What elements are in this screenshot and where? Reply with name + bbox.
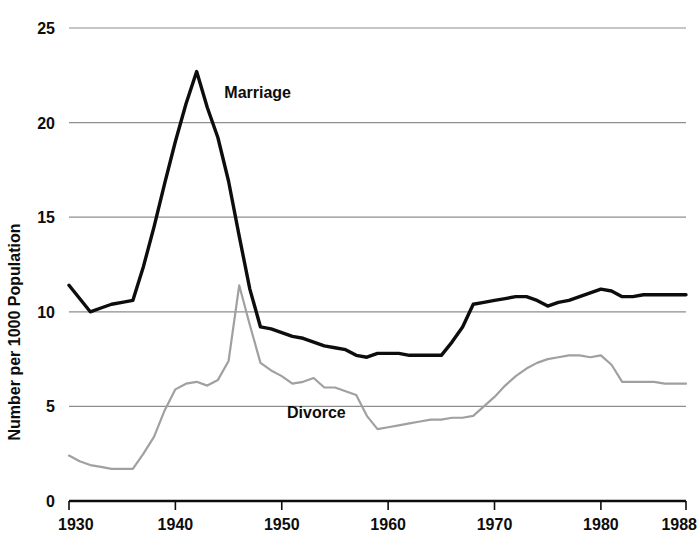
- x-tick-label-1950: 1950: [264, 516, 300, 533]
- line-chart: 0510152025 1930194019501960197019801988 …: [0, 0, 700, 559]
- y-tick-label-10: 10: [37, 304, 55, 321]
- y-axis-title: Number per 1000 Population: [6, 224, 23, 441]
- x-tick-label-1970: 1970: [477, 516, 513, 533]
- series-line-marriage: [69, 72, 686, 358]
- series-annotation-divorce: Divorce: [287, 404, 346, 421]
- y-tick-label-15: 15: [37, 209, 55, 226]
- y-tick-label-25: 25: [37, 20, 55, 37]
- series-line-divorce: [69, 285, 686, 469]
- x-tick-label-1930: 1930: [58, 516, 94, 533]
- chart-container: 0510152025 1930194019501960197019801988 …: [0, 0, 700, 559]
- series-lines-group: [69, 72, 686, 469]
- gridlines-group: [69, 28, 686, 406]
- y-axis-tick-labels: 0510152025: [37, 20, 55, 510]
- x-axis-group: [69, 501, 686, 510]
- x-tick-label-1980: 1980: [583, 516, 619, 533]
- y-tick-label-20: 20: [37, 115, 55, 132]
- x-tick-label-1988: 1988: [661, 516, 697, 533]
- x-tick-label-1960: 1960: [370, 516, 406, 533]
- series-annotation-marriage: Marriage: [224, 84, 291, 101]
- y-tick-label-0: 0: [46, 493, 55, 510]
- y-tick-label-5: 5: [46, 398, 55, 415]
- x-tick-label-1940: 1940: [158, 516, 194, 533]
- x-axis-tick-labels: 1930194019501960197019801988: [58, 516, 697, 533]
